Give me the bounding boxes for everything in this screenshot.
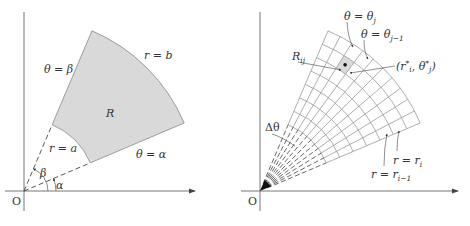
grid-ray xyxy=(298,43,352,130)
grid-ray xyxy=(321,99,408,153)
theta-alpha-label: θ = α xyxy=(136,148,167,161)
r-ij-label: Rij xyxy=(291,50,306,65)
dashed-ray xyxy=(265,136,307,185)
dashed-ray xyxy=(267,163,326,188)
delta-theta-label: Δθ xyxy=(265,121,280,134)
origin-wedge xyxy=(260,180,271,191)
polar-grid xyxy=(288,31,420,163)
grid-ray xyxy=(311,68,383,140)
sample-point xyxy=(343,63,347,67)
leader-theta-j1 xyxy=(364,40,368,59)
r-a-label: r = a xyxy=(49,142,77,155)
beta-label: β xyxy=(39,167,46,180)
dashed-ray xyxy=(266,140,311,185)
r-b-label: r = b xyxy=(144,49,173,62)
left-figure: O R θ = β r = b r = a θ = α β α xyxy=(5,12,195,211)
leader-r-i1 xyxy=(384,134,387,166)
r-i-minus-1-label: r = ri−1 xyxy=(371,168,411,183)
right-figure: O θ = θj θ = θj−1 Rij (r*i, θ*j) Δθ r = … xyxy=(241,10,458,211)
alpha-label: α xyxy=(56,179,64,192)
dashed-ray xyxy=(266,144,315,186)
leader-delta-theta xyxy=(272,134,295,146)
sample-point-label: (r*i, θ*j) xyxy=(396,59,436,74)
polar-region-diagram: O R θ = β r = b r = a θ = α β α O θ = θj… xyxy=(0,0,470,226)
origin-label: O xyxy=(248,195,257,208)
r-i-label: r = ri xyxy=(393,154,423,169)
leader-r-i xyxy=(397,131,399,151)
theta-j-label: θ = θj xyxy=(344,10,376,25)
theta-beta-label: θ = β xyxy=(44,63,73,76)
leader-point xyxy=(350,66,395,73)
origin-label: O xyxy=(12,195,21,208)
region-label: R xyxy=(105,107,114,120)
theta-j-minus-1-label: θ = θj−1 xyxy=(361,28,404,43)
